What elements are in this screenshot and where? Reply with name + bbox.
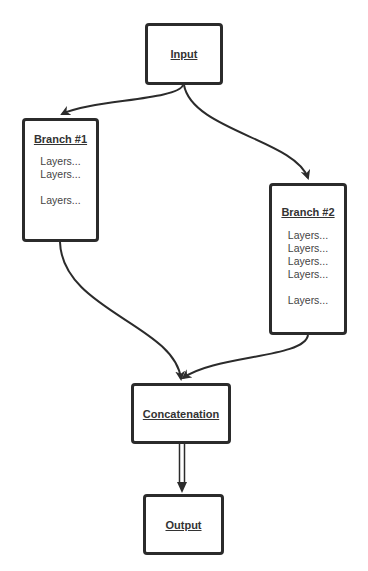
node-branch-2[interactable]: Branch #2 Layers... Layers... Layers... …: [269, 183, 347, 335]
layer-item: Layers...: [25, 168, 96, 181]
layer-item: Layers...: [272, 242, 344, 255]
edge-input-to-branch1: [62, 85, 183, 114]
diagram-canvas: Input Branch #1 Layers... Layers... Laye…: [0, 0, 368, 571]
layer-item: Layers...: [25, 194, 96, 207]
node-branch-1[interactable]: Branch #1 Layers... Layers... Layers...: [22, 118, 99, 242]
branch-2-layer-list: Layers... Layers... Layers... Layers... …: [272, 229, 344, 307]
branch-1-layer-list: Layers... Layers... Layers...: [25, 155, 96, 207]
layer-item: Layers...: [272, 294, 344, 307]
layer-item: Layers...: [25, 155, 96, 168]
node-title-branch-2: Branch #2: [272, 206, 344, 218]
edge-branch1-to-concat: [60, 242, 181, 379]
node-concatenation[interactable]: Concatenation: [131, 383, 231, 444]
node-title-output: Output: [165, 519, 201, 531]
node-title-concatenation: Concatenation: [143, 408, 219, 420]
node-output[interactable]: Output: [143, 494, 224, 555]
edge-input-to-branch2: [184, 85, 308, 178]
layer-item: Layers...: [272, 268, 344, 281]
node-input[interactable]: Input: [145, 23, 223, 85]
edge-branch2-to-concat: [183, 335, 308, 378]
node-title-input: Input: [171, 48, 198, 60]
edge-concat-to-output: [177, 444, 187, 493]
node-title-branch-1: Branch #1: [25, 133, 96, 145]
layer-item: Layers...: [272, 255, 344, 268]
layer-item: Layers...: [272, 229, 344, 242]
